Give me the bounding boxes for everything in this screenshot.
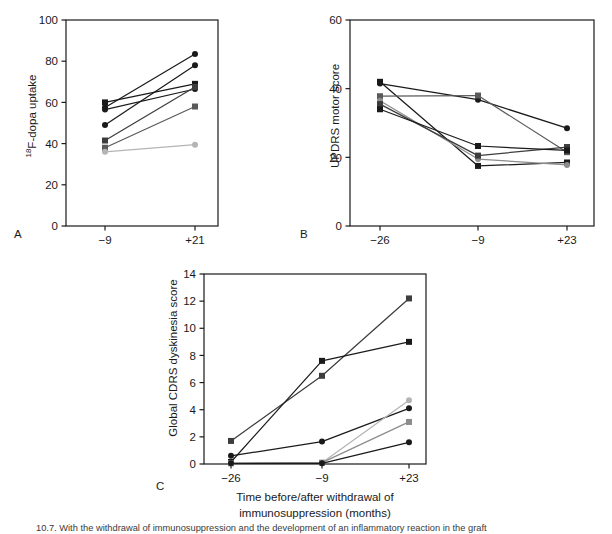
data-point-circle (406, 405, 412, 411)
panel-a-plot: 020406080100−9+21 (66, 20, 218, 226)
panel-c-plot: 02468101214−26−9+23 (204, 274, 426, 464)
y-tick-label: 2 (190, 431, 196, 443)
panel-a-svg: 020406080100−9+21 (66, 20, 218, 226)
figure-caption: 10.7. With the withdrawal of immunosuppr… (36, 522, 612, 534)
panel-letter-b: B (300, 228, 308, 240)
data-point-square (406, 419, 412, 425)
series-group (228, 295, 412, 466)
x-tick-label: −9 (98, 234, 111, 246)
data-point-square (228, 438, 234, 444)
x-tick-label: +23 (557, 234, 577, 246)
data-point-circle (192, 62, 198, 68)
x-axis-title: Time before/after withdrawal of immunosu… (165, 490, 465, 521)
panel-a-ylabel-text: 18F-dopa uptake (26, 74, 38, 157)
y-tick-label: 4 (190, 404, 197, 416)
x-tick-label: −9 (471, 234, 484, 246)
data-point-square (102, 138, 108, 144)
y-tick-label: 0 (336, 220, 342, 232)
panel-c-ylabel: Global CDRS dyskinesia score (167, 248, 179, 468)
y-tick-label: 100 (39, 14, 58, 26)
data-point-circle (228, 460, 234, 466)
panel-a-ylabel: 18F-dopa uptake (26, 51, 38, 181)
panel-letter-c: C (156, 480, 164, 492)
panel-b-ylabel-text: UPDRS motor score (329, 64, 341, 168)
data-point-square (192, 104, 198, 110)
x-tick-label: −26 (221, 472, 241, 484)
y-tick-label: 0 (52, 220, 58, 232)
series-group (102, 51, 198, 155)
data-point-square (377, 101, 383, 107)
y-tick-label: 14 (183, 268, 196, 280)
x-tick-label: +23 (399, 472, 419, 484)
panel-b-svg: 0204060−26−9+23 (350, 20, 594, 226)
data-point-circle (564, 162, 570, 168)
series-line (105, 107, 195, 148)
data-point-square (102, 99, 108, 105)
data-point-circle (228, 453, 234, 459)
y-tick-label: 10 (183, 322, 196, 334)
series-line (380, 109, 567, 150)
x-tick-label: −26 (370, 234, 390, 246)
y-tick-label: 8 (190, 350, 196, 362)
y-tick-label: 60 (45, 97, 58, 109)
data-point-circle (192, 142, 198, 148)
data-point-circle (319, 460, 325, 466)
data-point-square (192, 84, 198, 90)
series-line (380, 101, 567, 165)
panel-letter-a: A (14, 228, 22, 240)
x-tick-label: +21 (185, 234, 205, 246)
data-point-square (475, 93, 481, 99)
panel-b-ylabel: UPDRS motor score (329, 36, 341, 196)
y-tick-label: 6 (190, 377, 196, 389)
y-tick-label: 12 (183, 295, 196, 307)
series-line (380, 104, 567, 155)
y-tick-label: 0 (190, 458, 196, 470)
panel-c-ylabel-text: Global CDRS dyskinesia score (167, 279, 179, 436)
x-axis-title-line2: immunosuppression (months) (239, 507, 390, 519)
data-point-square (406, 295, 412, 301)
data-point-circle (319, 439, 325, 445)
y-tick-label: 60 (329, 14, 342, 26)
y-tick-label: 40 (45, 138, 58, 150)
series-line (105, 145, 195, 152)
plot-frame (66, 20, 218, 226)
plot-frame (350, 20, 594, 226)
data-point-square (406, 339, 412, 345)
data-point-square (377, 106, 383, 112)
x-tick-label: −9 (315, 472, 328, 484)
data-point-square (475, 153, 481, 159)
data-point-circle (102, 122, 108, 128)
data-point-square (564, 147, 570, 153)
panel-c-svg: 02468101214−26−9+23 (204, 274, 426, 464)
data-point-circle (102, 149, 108, 155)
data-point-square (319, 358, 325, 364)
data-point-square (475, 163, 481, 169)
data-point-circle (192, 51, 198, 57)
data-point-circle (406, 439, 412, 445)
data-point-square (475, 143, 481, 149)
panel-b-plot: 0204060−26−9+23 (350, 20, 594, 226)
data-point-circle (564, 125, 570, 131)
data-point-circle (406, 397, 412, 403)
y-tick-label: 20 (45, 179, 58, 191)
series-group (377, 79, 570, 169)
data-point-circle (102, 107, 108, 113)
data-point-circle (377, 81, 383, 87)
y-tick-label: 80 (45, 55, 58, 67)
x-axis-title-line1: Time before/after withdrawal of (236, 491, 393, 503)
data-point-square (319, 373, 325, 379)
